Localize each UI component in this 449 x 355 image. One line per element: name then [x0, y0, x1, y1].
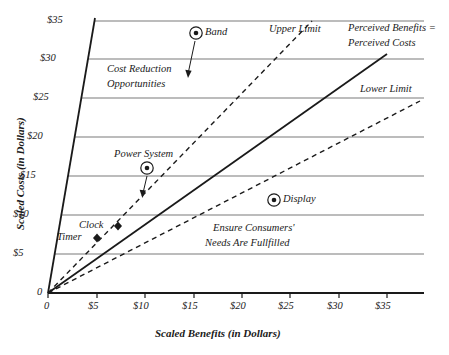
timer-marker-diamond — [93, 234, 101, 243]
y-tick-label-25: $25 — [33, 91, 49, 103]
parity-label-line1: Perceived Benefits = — [348, 22, 436, 34]
ensure-consumers-annotation-line2: Needs Are Fullfilled — [205, 237, 290, 249]
display-label: Display — [283, 193, 316, 205]
band-marker-group — [185, 27, 202, 78]
band-arrow-head — [185, 70, 191, 78]
y-tick-label-5: $5 — [13, 247, 24, 259]
y-tick-label-35: $35 — [47, 14, 63, 26]
power-system-marker-dot — [145, 166, 150, 171]
band-label: Band — [205, 26, 227, 38]
power-system-marker-group — [140, 162, 154, 198]
y-axis-title: Scaled Costs (in Dollars) — [14, 117, 26, 230]
timer-label: Timer — [57, 231, 82, 243]
cost-reduction-annotation-line2: Opportunities — [107, 78, 165, 90]
band-marker-dot — [194, 31, 199, 36]
x-tick-label-30: $30 — [327, 300, 343, 312]
clock-marker-diamond — [114, 222, 122, 231]
x-axis-title: Scaled Benefits (in Dollars) — [155, 327, 281, 340]
lower-limit-label: Lower Limit — [360, 83, 412, 95]
x-tick-label-0: 0 — [44, 300, 49, 312]
power-system-label: Power System — [114, 148, 173, 160]
parity-label-line2: Perceived Costs — [348, 37, 416, 49]
lower-limit-line — [48, 101, 420, 293]
y-tick-label-20: $20 — [27, 130, 43, 142]
cost-reduction-annotation-line1: Cost Reduction — [107, 63, 171, 75]
gridlines — [55, 21, 424, 254]
clock-label: Clock — [79, 219, 104, 231]
x-tick-label-25: $25 — [278, 300, 294, 312]
parity-line — [48, 54, 387, 293]
x-tick-label-5: $5 — [88, 300, 99, 312]
chart-page: $35 $30 $25 $20 $15 $10 $5 0 0 $5 $10 $1… — [0, 0, 449, 355]
band-arrow-shaft — [188, 41, 195, 74]
x-tick-label-10: $10 — [133, 300, 149, 312]
x-tick-label-20: $20 — [230, 300, 246, 312]
display-marker-group — [268, 194, 280, 206]
y-tick-label-0: 0 — [37, 286, 42, 298]
upper-limit-label: Upper Limit — [269, 23, 321, 35]
display-marker-dot — [272, 198, 277, 203]
ensure-consumers-annotation-line1: Ensure Consumers' — [213, 222, 294, 234]
x-tick-label-35: $35 — [375, 300, 391, 312]
y-tick-label-30: $30 — [40, 52, 56, 64]
x-tick-label-15: $15 — [182, 300, 198, 312]
